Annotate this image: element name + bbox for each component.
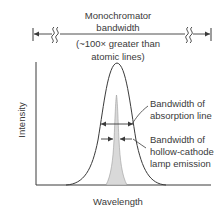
break-squiggle-left-1 <box>52 27 55 43</box>
x-axis-label: Wavelength <box>93 196 143 207</box>
monochromator-note-line2: atomic lines) <box>91 51 144 62</box>
monochromator-title-line2: bandwidth <box>96 22 139 33</box>
diagram-canvas: Monochromator bandwidth (~100× greater t… <box>0 0 223 210</box>
break-squiggle-right-2 <box>190 27 193 43</box>
emission-label-line2: hollow-cathode <box>150 146 214 157</box>
absorption-label-line1: Bandwidth of <box>150 98 205 109</box>
lamp-emission-peak <box>106 95 127 185</box>
emission-label-line3: lamp emission <box>150 158 211 169</box>
absorption-label-line2: absorption line <box>150 110 212 121</box>
monochromator-note-line1: (~100× greater than <box>76 38 160 49</box>
monochromator-title-line1: Monochromator <box>85 10 152 21</box>
emission-leader-line <box>133 139 146 148</box>
emission-label-line1: Bandwidth of <box>150 134 205 145</box>
break-squiggle-left-2 <box>56 27 59 43</box>
y-axis-label: Intensity <box>16 102 27 138</box>
absorption-leader-line <box>132 106 148 124</box>
break-squiggle-right-1 <box>186 27 189 43</box>
